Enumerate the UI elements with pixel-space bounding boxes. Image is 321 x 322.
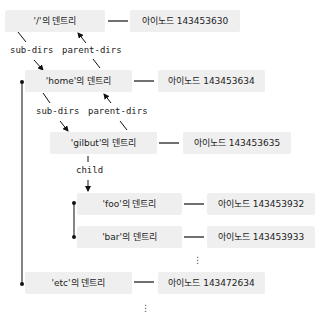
ellipsis-siblings: ⋮ [193,258,197,262]
parent-dirs-label: parent-dirs [88,106,148,117]
inode-gilbut: 아이노드 143453635 [183,132,291,154]
dentry-root: '/'의 덴트리 [5,10,105,32]
sub-dirs-label: sub-dirs [36,106,79,117]
ellipsis-more: ⋮ [141,306,145,310]
inode-etc: 아이노드 143472634 [158,272,265,294]
dentry-home: 'home'의 덴트리 [25,70,132,92]
parent-dirs-label: parent-dirs [62,45,122,56]
sub-dirs-label: sub-dirs [10,45,53,56]
inode-bar: 아이노드 143453933 [207,226,315,248]
inode-foo: 아이노드 143453932 [207,193,315,215]
dentry-etc: 'etc'의 덴트리 [25,272,132,294]
dentry-bar: 'bar'의 덴트리 [77,226,182,248]
inode-home: 아이노드 143453634 [158,70,265,92]
dentry-foo: 'foo'의 덴트리 [77,193,182,215]
inode-root: 아이노드 143453630 [130,10,240,32]
dentry-gilbut: 'gilbut'의 덴트리 [50,132,157,154]
child-label: child [76,165,103,176]
